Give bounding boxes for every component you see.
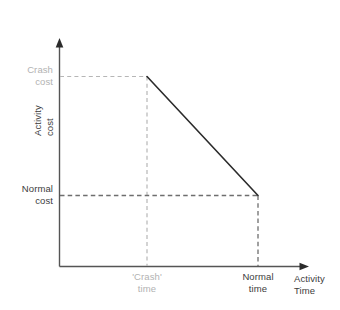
x-axis bbox=[60, 263, 310, 271]
x-axis-title: Activity Time bbox=[294, 273, 340, 297]
crash-cost-label: Crash cost bbox=[0, 64, 53, 88]
crash-time-label: 'Crash' time bbox=[117, 271, 177, 295]
y-axis bbox=[56, 38, 64, 267]
cost-time-slope-line bbox=[147, 77, 258, 196]
x-axis-arrow-icon bbox=[300, 263, 310, 271]
normal-time-label: Normal time bbox=[228, 271, 288, 295]
normal-cost-label: Normal cost bbox=[0, 183, 53, 207]
activity-cost-time-chart: Activity cost Crash cost Normal cost 'Cr… bbox=[0, 0, 340, 310]
y-axis-arrow-icon bbox=[56, 38, 64, 48]
chart-plot-area bbox=[0, 0, 340, 310]
